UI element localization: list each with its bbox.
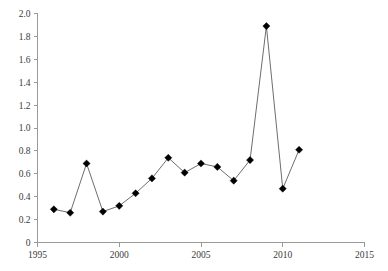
x-tick-label: 2005 — [192, 250, 211, 260]
line-chart: 00.20.40.60.81.01.21.41.61.82.0 19952000… — [0, 0, 388, 271]
x-tick-label: 2015 — [355, 250, 374, 260]
x-tick-label: 1995 — [28, 250, 47, 260]
data-point-marker — [296, 146, 303, 153]
y-tick-label: 0.8 — [19, 146, 31, 156]
data-series-line — [54, 26, 299, 213]
x-axis-ticks — [38, 243, 365, 247]
data-point-marker — [50, 206, 57, 213]
y-tick-label: 1.8 — [19, 32, 31, 42]
data-point-marker — [67, 209, 74, 216]
x-tick-label: 2010 — [273, 250, 292, 260]
y-tick-label: 1.2 — [19, 101, 31, 111]
data-point-markers — [50, 22, 302, 216]
y-tick-label: 2.0 — [19, 9, 31, 19]
data-point-marker — [279, 185, 286, 192]
x-axis-tick-labels: 19952000200520102015 — [28, 250, 374, 260]
y-tick-label: 0.2 — [19, 215, 31, 225]
y-tick-label: 1.0 — [19, 123, 31, 133]
x-tick-label: 2000 — [110, 250, 129, 260]
y-tick-label: 0 — [26, 238, 31, 248]
y-tick-label: 0.4 — [19, 192, 31, 202]
y-tick-label: 0.6 — [19, 169, 31, 179]
data-point-marker — [99, 208, 106, 215]
data-point-marker — [197, 160, 204, 167]
y-tick-label: 1.6 — [19, 55, 31, 65]
y-axis-tick-labels: 00.20.40.60.81.01.21.41.61.82.0 — [19, 9, 31, 248]
data-point-marker — [83, 160, 90, 167]
data-point-marker — [263, 22, 270, 29]
chart-plot-area: 00.20.40.60.81.01.21.41.61.82.0 19952000… — [0, 0, 388, 271]
y-tick-label: 1.4 — [19, 78, 31, 88]
y-axis-ticks — [34, 14, 38, 243]
